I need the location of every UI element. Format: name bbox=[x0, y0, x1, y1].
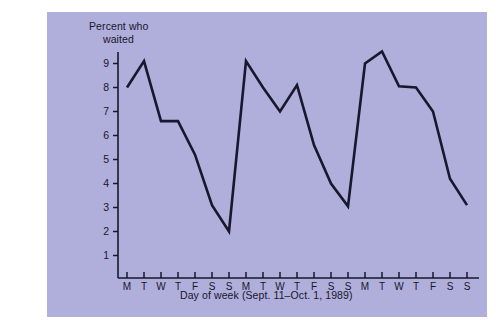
x-tick-label: W bbox=[394, 281, 404, 292]
y-tick-label: 3 bbox=[103, 201, 109, 213]
y-tick-group: 123456789 bbox=[103, 57, 118, 261]
x-tick-label: S bbox=[447, 281, 454, 292]
y-tick-label: 8 bbox=[103, 81, 109, 93]
x-tick-label: T bbox=[413, 281, 419, 292]
x-tick-label: T bbox=[379, 281, 385, 292]
y-tick-label: 2 bbox=[103, 225, 109, 237]
chart-panel: Percent who waited 123456789 MTWTFSSMTWT… bbox=[47, 12, 487, 317]
x-axis-title: Day of week (Sept. 11–Oct. 1, 1989) bbox=[180, 289, 353, 302]
line-chart-plot: 123456789 MTWTFSSMTWTFSSMTWTFSS bbox=[47, 12, 487, 317]
x-tick-label: F bbox=[430, 281, 436, 292]
y-tick-label: 6 bbox=[103, 129, 109, 141]
y-tick-label: 1 bbox=[103, 249, 109, 261]
x-tick-label: W bbox=[156, 281, 166, 292]
y-axis: 123456789 bbox=[103, 52, 118, 278]
y-tick-label: 4 bbox=[103, 177, 109, 189]
y-tick-label: 9 bbox=[103, 57, 109, 69]
x-tick-label: M bbox=[361, 281, 369, 292]
x-tick-label: T bbox=[141, 281, 147, 292]
y-tick-label: 7 bbox=[103, 105, 109, 117]
x-tick-label: S bbox=[464, 281, 471, 292]
y-tick-label: 5 bbox=[103, 153, 109, 165]
x-tick-label: M bbox=[123, 281, 131, 292]
chart-figure: Percent who waited 123456789 MTWTFSSMTWT… bbox=[0, 0, 499, 324]
data-series-line bbox=[127, 52, 467, 232]
